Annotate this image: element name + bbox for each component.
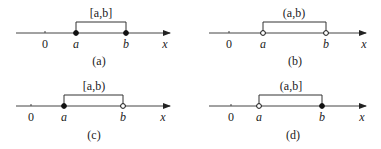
a-label: a [256, 110, 262, 124]
endpoint-b-open [121, 104, 126, 109]
endpoint-a-open [261, 31, 266, 36]
endpoint-a-open [257, 104, 262, 109]
panel-c: [a,b) 0 a b x (c) [16, 79, 170, 142]
interval-bracket [76, 22, 126, 33]
interval-bracket [64, 95, 123, 106]
origin-label: 0 [226, 37, 232, 51]
b-label: b [120, 110, 126, 124]
b-label: b [123, 37, 129, 51]
x-axis-label: x [159, 110, 166, 124]
origin-label: 0 [28, 110, 34, 124]
interval-label: [a,b) [83, 79, 105, 93]
interval-bracket [259, 95, 322, 106]
b-label: b [319, 110, 325, 124]
interval-label: (a,b) [283, 6, 305, 20]
endpoint-b-open [324, 31, 329, 36]
interval-label: (a,b] [280, 79, 302, 93]
panel-caption: (b) [288, 54, 302, 68]
endpoint-a-closed [74, 31, 79, 36]
panel-a: [a,b] 0 a b x (a) [16, 6, 170, 68]
a-label: a [73, 37, 79, 51]
interval-bracket [263, 22, 326, 33]
panel-caption: (c) [87, 128, 100, 142]
endpoint-b-closed [320, 104, 325, 109]
panel-caption: (d) [286, 128, 300, 142]
panel-b: (a,b) 0 a b x (b) [209, 6, 367, 68]
endpoint-b-closed [124, 31, 129, 36]
interval-diagram: [a,b] 0 a b x (a) (a,b) 0 a b x (b) [a,b… [0, 0, 381, 149]
b-label: b [323, 37, 329, 51]
panel-d: (a,b] 0 a b x (d) [209, 79, 366, 142]
origin-label: 0 [228, 110, 234, 124]
a-label: a [260, 37, 266, 51]
interval-label: [a,b] [90, 6, 112, 20]
x-axis-label: x [161, 37, 168, 51]
x-axis-label: x [358, 110, 365, 124]
a-label: a [61, 110, 67, 124]
endpoint-a-closed [62, 104, 67, 109]
panel-caption: (a) [92, 54, 105, 68]
x-axis-label: x [360, 37, 367, 51]
origin-label: 0 [42, 37, 48, 51]
